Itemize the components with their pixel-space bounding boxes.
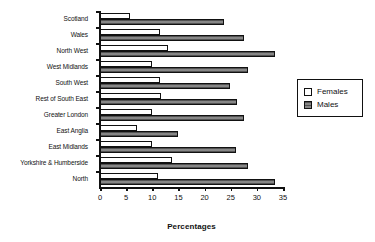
bar-females-south-west xyxy=(100,77,160,83)
x-axis-tick xyxy=(100,187,102,191)
bar-males-north-west xyxy=(100,51,275,57)
bar-males-east-anglia xyxy=(100,131,178,137)
x-axis-tick-label: 25 xyxy=(227,193,235,202)
bar-males-scotland xyxy=(100,19,224,25)
y-axis-tick xyxy=(96,75,100,77)
y-axis-tick xyxy=(96,155,100,157)
y-axis-tick xyxy=(96,171,100,173)
x-axis-tick-label: 30 xyxy=(253,193,261,202)
bar-males-east-midlands xyxy=(100,147,236,153)
bar-females-east-midlands xyxy=(100,141,152,147)
plot-area: 05101520253035 xyxy=(100,11,283,187)
x-axis-tick xyxy=(231,187,233,191)
category-label: Rest of South East xyxy=(36,95,88,103)
bar-males-greater-london xyxy=(100,115,244,121)
y-axis-tick xyxy=(96,91,100,93)
bar-females-west-midlands xyxy=(100,61,152,67)
bar-males-yorkshire-humberside xyxy=(100,163,248,169)
x-axis-tick-label: 15 xyxy=(174,193,182,202)
bar-males-north xyxy=(100,179,275,185)
y-axis-tick xyxy=(96,107,100,109)
legend-label-males: Males xyxy=(317,100,338,109)
bar-females-north-west xyxy=(100,45,168,51)
x-axis-tick-label: 5 xyxy=(124,193,128,202)
x-axis-tick xyxy=(178,187,180,191)
y-axis-tick xyxy=(96,27,100,29)
category-label: East Anglia xyxy=(57,127,88,135)
bar-females-yorkshire-humberside xyxy=(100,157,172,163)
bar-females-wales xyxy=(100,29,160,35)
category-axis-labels: ScotlandWalesNorth WestWest MidlandsSout… xyxy=(0,11,92,187)
x-axis-title: Percentages xyxy=(100,222,283,231)
bar-males-wales xyxy=(100,35,244,41)
category-label: East Midlands xyxy=(48,143,88,151)
legend-swatch-females-icon xyxy=(304,88,312,96)
legend-item-females: Females xyxy=(304,85,357,98)
bar-females-north xyxy=(100,173,158,179)
bar-males-west-midlands xyxy=(100,67,248,73)
bar-females-greater-london xyxy=(100,109,152,115)
legend: Females Males xyxy=(297,79,363,117)
y-axis-tick xyxy=(96,43,100,45)
category-label: North West xyxy=(57,47,88,55)
bar-males-rest-of-south-east xyxy=(100,99,237,105)
category-label: Yorkshire & Humberside xyxy=(20,159,88,167)
bar-females-east-anglia xyxy=(100,125,137,131)
x-axis-tick xyxy=(257,187,259,191)
bar-males-south-west xyxy=(100,83,230,89)
y-axis-tick xyxy=(96,11,100,13)
x-axis-tick xyxy=(283,187,285,191)
bar-females-scotland xyxy=(100,13,130,19)
category-label: North xyxy=(73,175,88,183)
x-axis-tick-label: 35 xyxy=(279,193,287,202)
category-label: South West xyxy=(56,79,88,87)
legend-item-males: Males xyxy=(304,98,357,111)
x-axis-tick xyxy=(205,187,207,191)
y-axis-tick xyxy=(96,59,100,61)
x-axis-tick xyxy=(152,187,154,191)
category-label: Greater London xyxy=(44,111,88,119)
y-axis-tick xyxy=(96,123,100,125)
category-label: West Midlands xyxy=(47,63,88,71)
x-axis-tick xyxy=(126,187,128,191)
bar-females-rest-of-south-east xyxy=(100,93,161,99)
y-axis-tick xyxy=(96,139,100,141)
legend-label-females: Females xyxy=(317,87,348,96)
x-axis-tick-label: 10 xyxy=(148,193,156,202)
category-label: Scotland xyxy=(64,15,89,23)
x-axis-tick-label: 0 xyxy=(98,193,102,202)
legend-swatch-males-icon xyxy=(304,101,312,109)
bar-chart: ScotlandWalesNorth WestWest MidlandsSout… xyxy=(0,0,375,242)
category-label: Wales xyxy=(71,31,88,39)
x-axis-tick-label: 20 xyxy=(200,193,208,202)
